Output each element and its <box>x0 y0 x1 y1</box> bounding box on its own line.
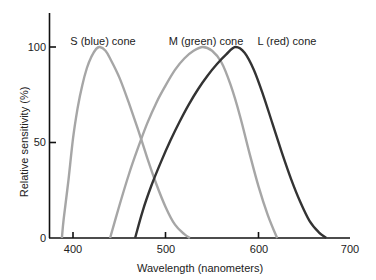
x-axis-title: Wavelength (nanometers) <box>137 262 263 274</box>
cone-sensitivity-chart: 100 50 0 400 500 600 700 Wavelength (nan… <box>0 0 376 280</box>
series-label-l-cone: L (red) cone <box>258 35 317 47</box>
x-tick-label-500: 500 <box>157 243 175 255</box>
y-tick-label-100: 100 <box>28 41 46 53</box>
y-tick-label-0: 0 <box>40 232 46 244</box>
series-label-s-cone: S (blue) cone <box>70 35 135 47</box>
series-layer <box>62 47 326 238</box>
x-ticks: 400 500 600 700 <box>64 232 359 255</box>
x-tick-label-400: 400 <box>64 243 82 255</box>
series-label-m-cone: M (green) cone <box>169 35 244 47</box>
y-axis-title: Relative sensitivity (%) <box>18 87 30 198</box>
y-tick-label-50: 50 <box>34 136 46 148</box>
m-cone-curve <box>110 47 277 238</box>
x-tick-label-600: 600 <box>250 243 268 255</box>
x-tick-label-700: 700 <box>341 243 359 255</box>
l-cone-curve <box>135 47 326 238</box>
y-ticks: 100 50 0 <box>28 41 56 244</box>
